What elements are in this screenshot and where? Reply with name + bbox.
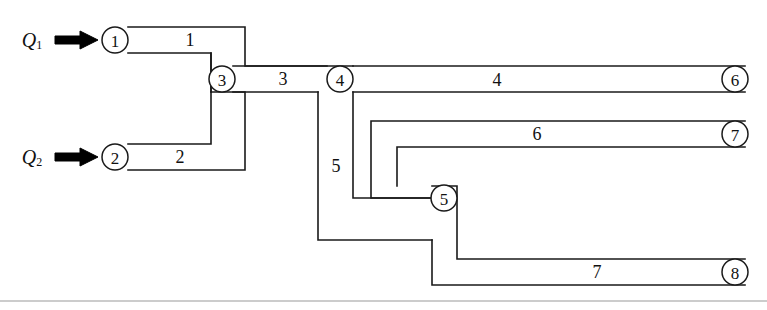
- pipe-label-1: 1: [186, 30, 195, 50]
- pipe-label-4: 4: [493, 70, 502, 90]
- inflow-q1-arrow-icon: [55, 31, 98, 49]
- node-3[interactable]: 3: [209, 66, 235, 92]
- node-3-label: 3: [218, 71, 227, 90]
- node-5[interactable]: 5: [431, 185, 457, 211]
- inflow-q2-arrow-icon: [55, 148, 98, 166]
- inflow-q2-symbol: Q: [22, 146, 37, 168]
- inflow-q1-label: Q1: [22, 29, 42, 52]
- pipe-label-6: 6: [533, 124, 542, 144]
- pipe-5-right-wall: [353, 92, 432, 198]
- inflow-q2-subscript: 2: [36, 155, 42, 169]
- node-8[interactable]: 8: [722, 259, 748, 285]
- node-4-label: 4: [336, 71, 345, 90]
- pipe-2-inner-wall: [128, 53, 211, 144]
- pipe-label-7: 7: [593, 262, 602, 282]
- pipe-7-outer-wall: [432, 186, 745, 259]
- node-7-label: 7: [731, 126, 740, 145]
- pipe-2-outer-wall: [128, 92, 245, 170]
- pipe-network-diagram: 1 2 3 4 5 6 7 1 2 3 4: [0, 0, 767, 310]
- node-7[interactable]: 7: [722, 121, 748, 147]
- inflow-q1-symbol: Q: [22, 29, 37, 51]
- inflow-q1: Q1: [22, 29, 98, 52]
- node-2-label: 2: [111, 149, 120, 168]
- node-1[interactable]: 1: [102, 27, 128, 53]
- node-5-label: 5: [440, 190, 449, 209]
- node-6[interactable]: 6: [722, 66, 748, 92]
- pipe-label-2: 2: [176, 147, 185, 167]
- node-8-label: 8: [731, 264, 740, 283]
- pipe-6-inner-wall: [397, 147, 745, 186]
- pipe-6-outer-wall: [371, 121, 745, 198]
- inflows-group: Q1 Q2: [22, 29, 98, 169]
- pipe-label-5: 5: [332, 156, 341, 176]
- node-2[interactable]: 2: [102, 144, 128, 170]
- node-1-label: 1: [111, 32, 120, 51]
- pipe-7-inner-wall: [432, 240, 745, 285]
- pipe-network-svg: 1 2 3 4 5 6 7 1 2 3 4: [0, 0, 767, 310]
- inflow-q2: Q2: [22, 146, 98, 169]
- pipe-label-3: 3: [279, 69, 288, 89]
- node-4[interactable]: 4: [327, 66, 353, 92]
- pipe-1-outer-wall: [128, 27, 353, 66]
- pipe-1-inner-wall: [128, 53, 211, 92]
- pipe-labels-group: 1 2 3 4 5 6 7: [176, 30, 602, 282]
- node-6-label: 6: [731, 71, 740, 90]
- inflow-q2-label: Q2: [22, 146, 42, 169]
- inflow-q1-subscript: 1: [36, 38, 42, 52]
